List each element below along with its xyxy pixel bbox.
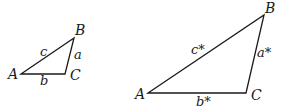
small-side-c-label: c bbox=[40, 44, 48, 59]
small-triangle: A B C a b c bbox=[6, 22, 85, 88]
small-vertex-B-label: B bbox=[74, 22, 85, 38]
small-vertex-A-label: A bbox=[6, 66, 18, 82]
large-side-a-label: a* bbox=[257, 45, 272, 60]
large-side-b-label: b* bbox=[196, 94, 211, 108]
large-triangle: A B C a* b* c* bbox=[133, 0, 275, 108]
small-triangle-shape bbox=[21, 38, 74, 74]
large-vertex-B-label: B bbox=[264, 0, 275, 16]
small-side-a-label: a bbox=[74, 47, 82, 62]
large-vertex-C-label: C bbox=[251, 87, 262, 103]
small-side-b-label: b bbox=[40, 73, 48, 88]
similar-triangles-diagram: A B C a b c A B C a* b* c* bbox=[0, 0, 281, 108]
small-vertex-C-label: C bbox=[70, 67, 81, 83]
large-vertex-A-label: A bbox=[133, 86, 145, 102]
large-side-c-label: c* bbox=[191, 42, 205, 57]
large-triangle-shape bbox=[148, 15, 264, 93]
